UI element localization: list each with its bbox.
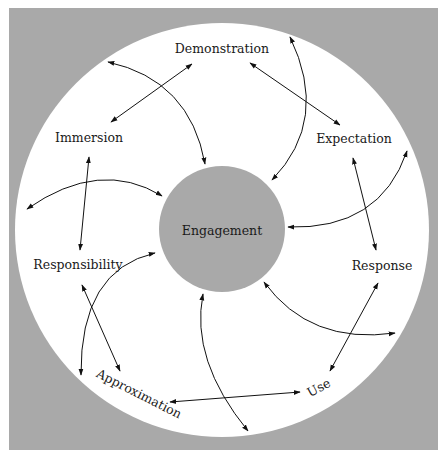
node-expectation: Expectation [316, 131, 392, 146]
engagement-cycle-diagram: Demonstration Expectation Response Use A… [0, 0, 445, 459]
center-label: Engagement [182, 223, 262, 238]
node-immersion: Immersion [55, 130, 123, 145]
node-response: Response [352, 258, 413, 273]
node-responsibility: Responsibility [33, 257, 123, 272]
node-demonstration: Demonstration [175, 41, 269, 56]
